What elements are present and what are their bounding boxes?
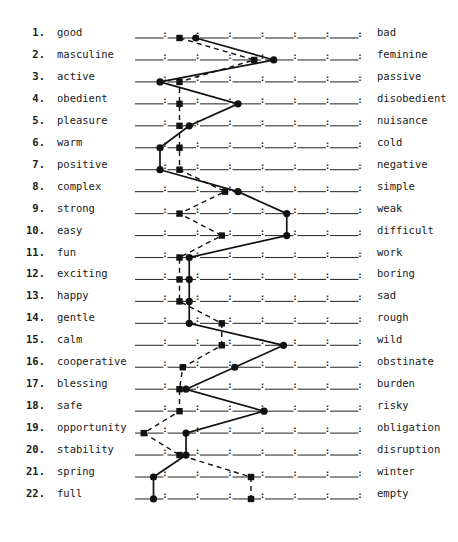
scale-number: 13.: [26, 289, 45, 301]
square-marker: [180, 364, 186, 370]
square-marker: [219, 232, 225, 238]
colon-separator: :: [357, 490, 362, 500]
right-adjective: difficult: [377, 224, 434, 236]
colon-separator: :: [357, 292, 362, 302]
colon-separator: :: [260, 468, 265, 478]
colon-separator: :: [292, 139, 297, 149]
scale-row: 1.good:::::::bad: [32, 26, 396, 39]
colon-separator: :: [357, 183, 362, 193]
left-adjective: gentle: [57, 311, 95, 323]
colon-separator: :: [260, 380, 265, 390]
left-adjective: easy: [57, 224, 82, 236]
square-marker: [222, 188, 228, 194]
square-marker: [176, 167, 182, 173]
circle-marker: [182, 430, 189, 437]
colon-separator: :: [292, 380, 297, 390]
circle-marker: [231, 364, 238, 371]
right-adjective: rough: [377, 311, 409, 323]
colon-separator: :: [227, 402, 232, 412]
scale-number: 21.: [26, 465, 45, 477]
colon-separator: :: [292, 95, 297, 105]
colon-separator: :: [260, 270, 265, 280]
colon-separator: :: [195, 336, 200, 346]
circle-marker: [283, 210, 290, 217]
colon-separator: :: [195, 314, 200, 324]
right-adjective: cold: [377, 136, 402, 148]
colon-separator: :: [325, 29, 330, 39]
scale-number: 22.: [26, 487, 45, 499]
scale-number: 10.: [26, 224, 45, 236]
colon-separator: :: [292, 205, 297, 215]
left-adjective: stability: [57, 443, 114, 455]
colon-separator: :: [325, 51, 330, 61]
colon-separator: :: [227, 95, 232, 105]
colon-separator: :: [162, 292, 167, 302]
colon-separator: :: [292, 490, 297, 500]
colon-separator: :: [292, 227, 297, 237]
square-marker: [251, 57, 257, 63]
circle-marker: [283, 232, 290, 239]
colon-separator: :: [357, 139, 362, 149]
circle-marker: [186, 254, 193, 261]
square-marker: [176, 408, 182, 414]
colon-separator: :: [292, 446, 297, 456]
colon-separator: :: [227, 380, 232, 390]
left-adjective: fun: [57, 246, 76, 258]
colon-separator: :: [292, 314, 297, 324]
circle-marker: [270, 56, 277, 63]
colon-separator: :: [292, 336, 297, 346]
scale-row: 19.opportunity:::::::obligation: [26, 421, 440, 434]
colon-separator: :: [162, 29, 167, 39]
square-marker: [141, 430, 147, 436]
colon-separator: :: [162, 314, 167, 324]
colon-separator: :: [260, 314, 265, 324]
square-marker: [219, 320, 225, 326]
colon-separator: :: [325, 424, 330, 434]
colon-separator: :: [195, 292, 200, 302]
colon-separator: :: [162, 424, 167, 434]
colon-separator: :: [195, 95, 200, 105]
right-adjective: empty: [377, 487, 409, 499]
left-adjective: spring: [57, 465, 95, 477]
colon-separator: :: [260, 249, 265, 259]
colon-separator: :: [227, 227, 232, 237]
scale-row: 22.full:::::::empty: [26, 487, 409, 500]
colon-separator: :: [292, 29, 297, 39]
square-marker: [176, 210, 182, 216]
colon-separator: :: [325, 205, 330, 215]
scale-row: 10.easy:::::::difficult: [26, 224, 434, 237]
colon-separator: :: [227, 446, 232, 456]
left-adjective: strong: [57, 202, 95, 214]
colon-separator: :: [357, 424, 362, 434]
circle-marker: [260, 408, 267, 415]
circle-marker: [192, 34, 199, 41]
colon-separator: :: [195, 358, 200, 368]
colon-separator: :: [162, 51, 167, 61]
circle-marker: [150, 473, 157, 480]
scale-row: 15.calm:::::::wild: [26, 333, 402, 346]
scale-number: 14.: [26, 311, 45, 323]
colon-separator: :: [162, 205, 167, 215]
colon-separator: :: [292, 270, 297, 280]
right-adjective: negative: [377, 158, 428, 170]
colon-separator: :: [292, 468, 297, 478]
scale-number: 7.: [32, 158, 45, 170]
colon-separator: :: [227, 270, 232, 280]
square-marker: [176, 35, 182, 41]
colon-separator: :: [260, 358, 265, 368]
colon-separator: :: [292, 73, 297, 83]
colon-separator: :: [195, 139, 200, 149]
colon-separator: :: [195, 490, 200, 500]
colon-separator: :: [227, 161, 232, 171]
colon-separator: :: [162, 270, 167, 280]
colon-separator: :: [292, 117, 297, 127]
right-adjective: passive: [377, 70, 421, 82]
colon-separator: :: [260, 117, 265, 127]
colon-separator: :: [227, 139, 232, 149]
scale-row: 17.blessing:::::::burden: [26, 377, 415, 390]
colon-separator: :: [260, 139, 265, 149]
circle-marker: [186, 320, 193, 327]
colon-separator: :: [325, 380, 330, 390]
right-adjective: sad: [377, 289, 396, 301]
circle-marker: [182, 386, 189, 393]
